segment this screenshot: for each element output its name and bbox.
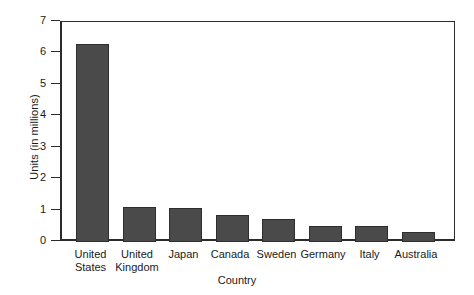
- bar: [355, 226, 388, 242]
- y-axis-tick: [51, 83, 60, 84]
- bar: [309, 226, 342, 242]
- y-axis-tick: [51, 20, 60, 21]
- y-axis-tick: [51, 209, 60, 210]
- y-axis-tick: [51, 114, 60, 115]
- bar: [216, 215, 249, 242]
- category-label-line: Kingdom: [99, 261, 175, 274]
- bar: [76, 44, 109, 242]
- y-axis-tick-label: 5: [18, 78, 46, 89]
- y-axis-tick-label: 7: [18, 15, 46, 26]
- y-axis-tick-label: 6: [18, 46, 46, 57]
- x-axis-category-label: Australia: [378, 248, 454, 261]
- plot-area: [60, 21, 455, 241]
- bar: [402, 232, 435, 242]
- y-axis-tick: [51, 240, 60, 241]
- y-axis-tick: [51, 51, 60, 52]
- bar: [169, 208, 202, 242]
- y-axis-tick-label: 1: [18, 204, 46, 215]
- category-label-line: Australia: [378, 248, 454, 261]
- y-axis-tick: [51, 177, 60, 178]
- bar: [123, 207, 156, 242]
- bar: [262, 219, 295, 242]
- y-axis-tick: [51, 146, 60, 147]
- y-axis-tick-label: 3: [18, 141, 46, 152]
- x-axis-title: Country: [187, 274, 287, 286]
- y-axis-tick-label: 0: [18, 235, 46, 246]
- y-axis-tick-label: 2: [18, 172, 46, 183]
- y-axis-tick-label: 4: [18, 109, 46, 120]
- bar-chart-figure: Units (in millions) 76543210 UnitedState…: [0, 0, 474, 295]
